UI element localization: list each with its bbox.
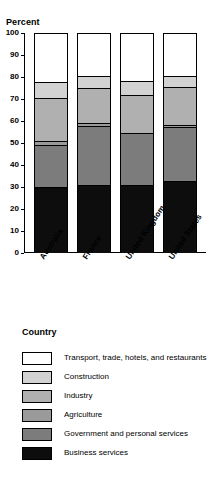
bar-france[interactable] bbox=[77, 33, 111, 253]
y-axis-line bbox=[24, 33, 25, 253]
legend-title: Country bbox=[22, 327, 218, 337]
legend-swatch bbox=[22, 447, 52, 460]
legend-swatch bbox=[22, 409, 52, 422]
plot-inner: 0102030405060708090100 bbox=[24, 33, 206, 253]
y-axis-tick-label: 90 bbox=[10, 51, 19, 59]
y-axis-tick-label: 0 bbox=[15, 249, 19, 257]
y-axis-tick bbox=[21, 121, 24, 122]
y-axis-tick-label: 80 bbox=[10, 73, 19, 81]
bar-segment bbox=[121, 81, 153, 95]
legend-swatch bbox=[22, 352, 52, 365]
y-axis-tick bbox=[21, 143, 24, 144]
legend-item[interactable]: Industry bbox=[22, 387, 218, 405]
bar-segment bbox=[121, 133, 153, 186]
bar-segment bbox=[78, 76, 110, 88]
y-axis-tick bbox=[21, 55, 24, 56]
legend-label: Transport, trade, hotels, and restaurant… bbox=[64, 354, 206, 362]
legend-swatch bbox=[22, 390, 52, 403]
bar-segment bbox=[35, 145, 67, 188]
legend-item[interactable]: Transport, trade, hotels, and restaurant… bbox=[22, 349, 218, 367]
bar-segment bbox=[35, 82, 67, 97]
chart-plot-area: 0102030405060708090100 bbox=[24, 33, 206, 253]
y-axis-tick bbox=[21, 99, 24, 100]
y-axis-tick bbox=[21, 77, 24, 78]
bar-segment bbox=[35, 98, 67, 142]
bar-australia[interactable] bbox=[34, 33, 68, 253]
legend-label: Government and personal services bbox=[64, 430, 188, 438]
legend-item[interactable]: Agriculture bbox=[22, 406, 218, 424]
bar-segment bbox=[164, 127, 196, 181]
bar-segment bbox=[78, 88, 110, 123]
y-axis-tick-label: 60 bbox=[10, 117, 19, 125]
bar-segment bbox=[35, 34, 67, 82]
y-axis-tick-label: 100 bbox=[6, 29, 19, 37]
y-axis-tick bbox=[21, 231, 24, 232]
y-axis-tick bbox=[21, 209, 24, 210]
legend-label: Industry bbox=[64, 392, 92, 400]
bar-segment bbox=[164, 87, 196, 125]
legend-item[interactable]: Business services bbox=[22, 444, 218, 462]
legend-swatch bbox=[22, 428, 52, 441]
y-axis-title: Percent bbox=[6, 17, 40, 27]
y-axis-tick-label: 40 bbox=[10, 161, 19, 169]
legend-label: Construction bbox=[64, 373, 109, 381]
legend-label: Business services bbox=[64, 449, 128, 457]
y-axis-tick bbox=[21, 253, 24, 254]
bar-segment bbox=[121, 34, 153, 81]
legend-label: Agriculture bbox=[64, 411, 102, 419]
legend-item[interactable]: Government and personal services bbox=[22, 425, 218, 443]
y-axis-tick bbox=[21, 165, 24, 166]
legend-rows: Transport, trade, hotels, and restaurant… bbox=[22, 349, 218, 462]
legend-swatch bbox=[22, 371, 52, 384]
y-axis-tick-label: 50 bbox=[10, 139, 19, 147]
y-axis-tick-label: 10 bbox=[10, 227, 19, 235]
legend-item[interactable]: Construction bbox=[22, 368, 218, 386]
y-axis-tick-label: 20 bbox=[10, 205, 19, 213]
y-axis-tick bbox=[21, 33, 24, 34]
chart-legend: Country Transport, trade, hotels, and re… bbox=[22, 327, 218, 463]
y-axis-tick-label: 30 bbox=[10, 183, 19, 191]
bar-segment bbox=[78, 126, 110, 185]
bar-segment bbox=[164, 76, 196, 87]
bar-segment bbox=[164, 34, 196, 76]
y-axis-tick bbox=[21, 187, 24, 188]
bar-segment bbox=[78, 34, 110, 76]
y-axis-tick-label: 70 bbox=[10, 95, 19, 103]
bar-segment bbox=[121, 95, 153, 132]
